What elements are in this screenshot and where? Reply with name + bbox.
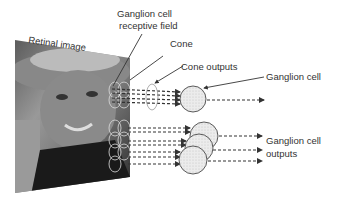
retinal-image-photo (10, 35, 135, 200)
label-rf-line1: Ganglion cell (117, 8, 172, 19)
label-cone: Cone (170, 38, 193, 49)
label-rf-line2: receptive field (119, 20, 178, 31)
label-outputs-line1: Ganglion cell (266, 135, 321, 146)
label-ganglion-cell: Ganglion cell (266, 71, 321, 82)
ganglion-cells-bottom (179, 122, 218, 174)
retina-diagram: Retinal image Ganglion cell receptive fi… (0, 0, 340, 202)
label-cone-outputs: Cone outputs (181, 61, 238, 72)
label-outputs-line2: outputs (266, 148, 297, 159)
ganglion-cell-top (180, 86, 206, 112)
cone-ellipse (146, 84, 158, 110)
